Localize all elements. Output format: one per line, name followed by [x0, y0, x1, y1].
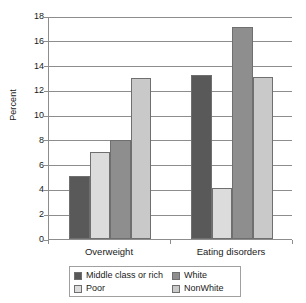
- y-axis-tick-label: 18: [4, 12, 44, 21]
- x-axis-tick-mark: [48, 240, 49, 244]
- x-axis-category-label: Eating disorders: [170, 246, 292, 257]
- plot-area: [48, 17, 292, 240]
- y-axis-tick-label: 6: [4, 161, 44, 170]
- legend-label: NonWhite: [184, 284, 224, 293]
- x-axis-tick-mark: [292, 240, 293, 244]
- y-axis-tick-label: 10: [4, 111, 44, 120]
- bar: [232, 27, 253, 239]
- x-axis-category-label: Overweight: [48, 246, 170, 257]
- bar: [191, 75, 212, 239]
- gridline: [49, 66, 292, 67]
- legend: Middle class or richWhitePoorNonWhite: [69, 266, 241, 297]
- bar: [131, 78, 152, 239]
- legend-label: Poor: [86, 284, 105, 293]
- y-axis-title: Percent: [8, 70, 18, 140]
- bar: [90, 152, 111, 239]
- x-axis-tick-mark: [170, 240, 171, 244]
- legend-swatch-icon: [74, 285, 82, 293]
- y-axis-tick-label: 16: [4, 37, 44, 46]
- y-axis-tick-label: 12: [4, 86, 44, 95]
- legend-swatch-icon: [172, 285, 180, 293]
- y-axis-tick-label: 2: [4, 210, 44, 219]
- legend-label: Middle class or rich: [86, 271, 163, 280]
- y-axis-tick-label: 14: [4, 62, 44, 71]
- bar: [253, 77, 274, 239]
- legend-item: NonWhite: [172, 284, 242, 293]
- legend-item: Poor: [74, 284, 172, 293]
- legend-item: White: [172, 271, 242, 280]
- legend-swatch-icon: [74, 272, 82, 280]
- legend-swatch-icon: [172, 272, 180, 280]
- bar: [69, 176, 90, 239]
- bar-chart: Percent 181614121086420 OverweightEating…: [0, 0, 306, 303]
- legend-item: Middle class or rich: [74, 271, 172, 280]
- bar: [212, 188, 233, 239]
- y-axis-tick-label: 8: [4, 136, 44, 145]
- legend-label: White: [184, 271, 207, 280]
- gridline: [49, 41, 292, 42]
- y-axis-tick-label: 4: [4, 185, 44, 194]
- y-axis-tick-label: 0: [4, 235, 44, 244]
- bar: [110, 140, 131, 239]
- gridline: [49, 17, 292, 18]
